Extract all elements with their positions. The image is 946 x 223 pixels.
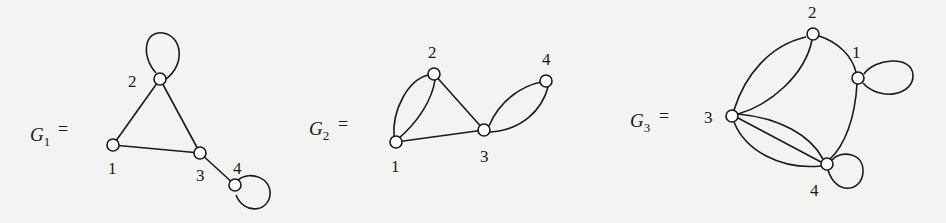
g3-loop-1 [863, 61, 913, 94]
graph-g1: G1 = 1 2 3 4 [30, 33, 270, 209]
graph-g3-title: G3 [630, 110, 650, 135]
g2-label-4: 4 [542, 50, 551, 69]
g3-label-1: 1 [852, 43, 861, 62]
g3-node-1 [852, 72, 864, 84]
g2-edge-1-3 [396, 130, 484, 142]
g2-label-1: 1 [391, 157, 400, 176]
g2-node-4 [540, 75, 552, 87]
g2-node-3 [478, 124, 490, 136]
g1-loop-2 [146, 33, 179, 79]
g3-loop-4 [828, 154, 863, 188]
g3-edge-3-4-a [738, 114, 823, 159]
g3-label-2: 2 [808, 3, 817, 22]
graph-g2-title: G2 [309, 118, 329, 143]
g3-edge-1-4 [830, 84, 857, 159]
g3-edge-3-4-c [734, 122, 821, 167]
graph-g2: G2 = 1 2 3 4 [309, 43, 552, 176]
graph-g1-equals: = [58, 119, 68, 139]
g1-node-1 [107, 139, 119, 151]
g1-edge-1-2 [113, 79, 160, 145]
g2-edge-2-3 [434, 74, 484, 130]
g1-edge-1-3 [113, 145, 200, 153]
g2-edge-1-2-b [398, 80, 435, 139]
g3-node-3 [726, 110, 738, 122]
graph-g2-equals: = [338, 114, 348, 134]
g2-label-3: 3 [480, 147, 489, 166]
g1-edge-3-4 [200, 153, 235, 185]
graph-g1-title: G1 [30, 124, 50, 149]
g3-label-3: 3 [704, 108, 713, 127]
g2-edge-1-2-a [394, 75, 428, 137]
g1-loop-4 [236, 176, 270, 209]
graph-figure: G1 = 1 2 3 4 G2 = 1 [0, 0, 946, 223]
g2-label-2: 2 [428, 43, 437, 62]
g1-label-1: 1 [108, 159, 117, 178]
g1-node-3 [194, 147, 206, 159]
graph-g3: G3 = 1 2 3 4 [630, 3, 913, 200]
g1-node-4 [229, 179, 241, 191]
g3-edge-2-1 [819, 36, 856, 72]
g1-label-3: 3 [196, 166, 205, 185]
graph-g3-equals: = [659, 106, 669, 126]
g2-edge-3-4-a [489, 82, 541, 126]
g2-node-2 [428, 68, 440, 80]
g2-node-1 [390, 136, 402, 148]
g1-label-4: 4 [233, 159, 242, 178]
g1-edge-2-3 [160, 79, 200, 153]
g1-label-2: 2 [128, 72, 137, 91]
g3-node-4 [821, 158, 833, 170]
g3-label-4: 4 [810, 181, 819, 200]
g3-node-2 [807, 28, 819, 40]
g1-node-2 [154, 73, 166, 85]
